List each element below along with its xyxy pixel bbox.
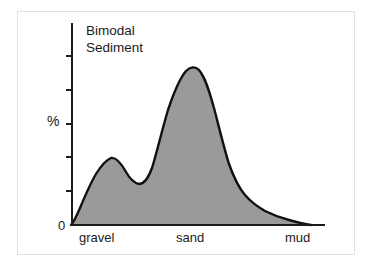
x-axis-label-mud: mud <box>285 230 310 245</box>
figure-root: Bimodal Sediment % 0 gravel sand mud <box>0 0 374 272</box>
x-axis-label-gravel: gravel <box>79 230 115 245</box>
y-axis-zero-label: 0 <box>58 218 65 233</box>
x-axis-label-sand: sand <box>176 230 204 245</box>
y-axis-label: % <box>47 113 59 129</box>
chart-title-line-1: Bimodal <box>86 23 135 38</box>
bimodal-sediment-chart: Bimodal Sediment % 0 gravel sand mud <box>0 0 374 272</box>
distribution-area-fill <box>71 67 311 225</box>
chart-title-line-2: Sediment <box>86 40 143 55</box>
